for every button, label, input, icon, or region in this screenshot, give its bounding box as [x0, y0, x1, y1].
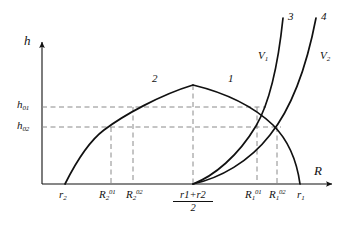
- curve-3-number: 3: [288, 11, 294, 22]
- x-tick-r1-sub: 1: [301, 194, 304, 202]
- curve-4-number: 4: [321, 11, 327, 22]
- curve-2-path: [65, 85, 193, 184]
- y-tick-h02-sub: 02: [23, 125, 30, 133]
- x-tick-R2-02-base: R: [126, 188, 133, 200]
- midpoint-numerator: r1+r2: [173, 189, 213, 200]
- x-tick-label-midpoint: r1+r2 2: [173, 189, 213, 213]
- x-tick-label-r2: r2: [59, 189, 67, 202]
- curve-4-label-V2: V2: [320, 50, 330, 63]
- x-tick-R1-01-sup: 01: [255, 188, 261, 195]
- x-tick-label-r1: r1: [297, 189, 305, 202]
- x-tick-label-R1-02: R102: [269, 189, 285, 202]
- figure-container: h R h01 h02 r2 R201 R202 r1+r2 2 R101 R1…: [0, 0, 348, 229]
- curve-1-number: 1: [228, 73, 234, 84]
- x-tick-r2-sub: 2: [63, 194, 66, 202]
- x-tick-R1-01-base: R: [245, 188, 252, 200]
- x-tick-label-R1-01: R101: [245, 189, 261, 202]
- curve-3-label-V1: V1: [258, 50, 268, 63]
- x-tick-R2-01-sup: 01: [109, 188, 115, 195]
- y-tick-label-h02: h02: [17, 120, 29, 133]
- midpoint-denominator: 2: [173, 202, 213, 213]
- curve-2-number: 2: [152, 73, 158, 84]
- y-tick-h01-sub: 01: [23, 104, 30, 112]
- curve-4-label-base: V: [320, 49, 327, 61]
- curve-4-label-sub: 2: [327, 55, 330, 63]
- curve-3-label-sub: 1: [265, 55, 268, 63]
- curve-1-path: [193, 85, 300, 184]
- curve-4-path: [193, 18, 316, 184]
- x-tick-R1-02-sup: 02: [279, 188, 285, 195]
- x-axis-label: R: [314, 164, 322, 177]
- y-tick-label-h01: h01: [17, 99, 29, 112]
- x-tick-label-R2-02: R202: [126, 189, 142, 202]
- x-tick-R2-02-sup: 02: [136, 188, 142, 195]
- y-axis-label: h: [24, 34, 31, 47]
- curve-3-label-base: V: [258, 49, 265, 61]
- x-tick-R1-02-base: R: [269, 188, 276, 200]
- x-tick-R2-01-base: R: [99, 188, 106, 200]
- x-tick-label-R2-01: R201: [99, 189, 115, 202]
